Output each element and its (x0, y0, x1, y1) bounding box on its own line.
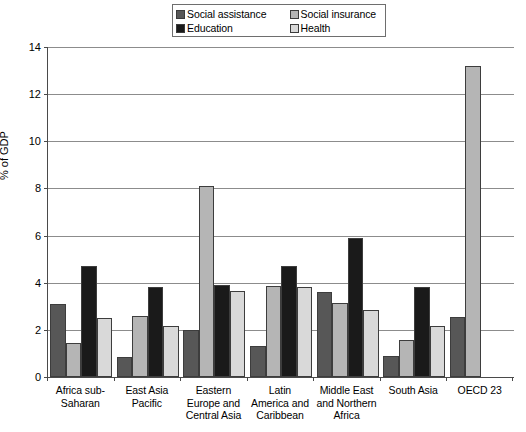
x-axis-label-line: Saharan (47, 397, 114, 410)
x-axis-label: East AsiaPacific (114, 384, 181, 409)
bar (132, 316, 148, 377)
x-tick-mark (512, 377, 513, 381)
bar-group (317, 47, 379, 377)
bar (465, 66, 481, 377)
x-axis-label-line: East Asia (114, 384, 181, 397)
legend-item-social-insurance: Social insurance (290, 7, 382, 21)
bar (399, 340, 415, 377)
legend-swatch-education (176, 24, 185, 33)
bar (50, 304, 66, 377)
x-axis-label: Africa sub-Saharan (47, 384, 114, 409)
bar-group (183, 47, 245, 377)
legend-item-social-assistance: Social assistance (176, 7, 290, 21)
x-axis-label: Middle Eastand NorthernAfrica (313, 384, 380, 422)
bar (332, 303, 348, 377)
x-axis-label-line: Middle East (313, 384, 380, 397)
bar (250, 346, 266, 377)
x-axis-label-line: OECD 23 (446, 384, 513, 397)
x-axis-label: South Asia (380, 384, 447, 397)
legend-label-health: Health (301, 23, 331, 34)
legend-swatch-social-assistance (176, 10, 185, 19)
bar (163, 326, 179, 377)
bar (450, 317, 466, 377)
x-axis-label-line: Africa (313, 409, 380, 422)
bar-group (117, 47, 179, 377)
x-axis-label-line: and Northern (313, 397, 380, 410)
x-tick-mark (47, 377, 48, 381)
x-axis-label-line: Africa sub- (47, 384, 114, 397)
bar-chart: Social assistance Social insurance Educa… (0, 0, 526, 432)
bar (414, 287, 430, 377)
x-axis-label-line: Europe and (180, 397, 247, 410)
bar (81, 266, 97, 377)
bar (383, 356, 399, 377)
bar (148, 287, 164, 377)
legend-row-2: Education Health (176, 21, 382, 35)
y-tick-label-6: 6 (35, 230, 41, 241)
legend-label-social-assistance: Social assistance (187, 9, 266, 20)
x-axis-label: OECD 23 (446, 384, 513, 397)
y-tick-label-8: 8 (35, 183, 41, 194)
bar-group (250, 47, 312, 377)
x-tick-mark (247, 377, 248, 381)
x-axis-label: EasternEurope andCentral Asia (180, 384, 247, 422)
x-axis-label-line: America and (247, 397, 314, 410)
plot-area: 02468101214 (47, 47, 514, 378)
x-axis-label-line: Central Asia (180, 409, 247, 422)
y-tick-label-4: 4 (35, 277, 41, 288)
x-tick-mark (180, 377, 181, 381)
bar (230, 291, 246, 377)
bar (97, 318, 113, 377)
bar (117, 357, 133, 377)
x-tick-mark (114, 377, 115, 381)
bar (266, 286, 282, 377)
bar (363, 310, 379, 377)
legend-row-1: Social assistance Social insurance (176, 7, 382, 21)
y-tick-label-10: 10 (29, 136, 41, 147)
x-axis-label-line: Latin (247, 384, 314, 397)
y-tick-label-14: 14 (29, 42, 41, 53)
legend-label-education: Education (187, 23, 233, 34)
legend-item-education: Education (176, 21, 290, 35)
bar (281, 266, 297, 377)
bar (348, 238, 364, 377)
legend-swatch-health (290, 24, 299, 33)
x-axis-labels: Africa sub-SaharanEast AsiaPacificEaster… (47, 381, 513, 431)
y-tick-label-0: 0 (35, 372, 41, 383)
bar (199, 186, 215, 377)
bar-group (383, 47, 445, 377)
chart-legend: Social assistance Social insurance Educa… (172, 4, 386, 37)
bar-group (50, 47, 112, 377)
bar (183, 330, 199, 377)
legend-label-social-insurance: Social insurance (301, 9, 376, 20)
bar-group (450, 47, 512, 377)
x-axis-label-line: Caribbean (247, 409, 314, 422)
legend-item-health: Health (290, 21, 382, 35)
legend-swatch-social-insurance (290, 10, 299, 19)
x-axis-label: LatinAmerica andCaribbean (247, 384, 314, 422)
bar (317, 292, 333, 377)
bar (66, 343, 82, 377)
y-tick-label-12: 12 (29, 89, 41, 100)
x-tick-mark (446, 377, 447, 381)
x-axis-label-line: South Asia (380, 384, 447, 397)
y-tick-label-2: 2 (35, 324, 41, 335)
x-axis-label-line: Pacific (114, 397, 181, 410)
x-tick-mark (380, 377, 381, 381)
bars-layer (48, 47, 514, 377)
y-axis-title: % of GDP (0, 131, 10, 180)
x-tick-mark (313, 377, 314, 381)
x-axis-label-line: Eastern (180, 384, 247, 397)
bar (430, 326, 446, 377)
bar (214, 285, 230, 377)
bar (297, 287, 313, 377)
